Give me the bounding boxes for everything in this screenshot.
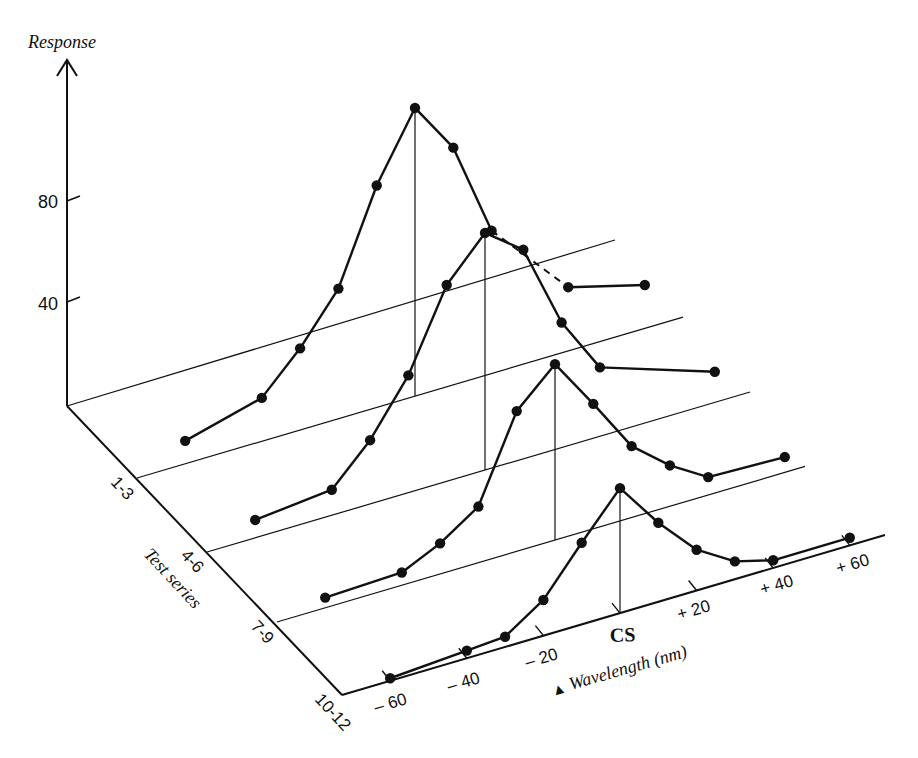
- series-segment: [600, 367, 715, 371]
- series-segment: [670, 465, 708, 477]
- series-segment: [658, 523, 696, 550]
- series-segment: [453, 148, 491, 231]
- series-segment: [408, 285, 446, 375]
- series-segment: [632, 446, 670, 465]
- series-segment: [478, 411, 516, 506]
- x-tick-label-p20: + 20: [675, 596, 712, 624]
- series-segment: [593, 404, 631, 446]
- series-segment: [447, 233, 485, 285]
- series-segment: [620, 488, 658, 523]
- data-point: [250, 515, 260, 525]
- data-point: [615, 483, 625, 493]
- data-point: [448, 142, 458, 152]
- delta-icon: ▲: [549, 678, 568, 698]
- data-point: [295, 343, 305, 353]
- baseline-4-6: [207, 392, 750, 552]
- data-point: [640, 280, 650, 290]
- data-point: [556, 317, 566, 327]
- data-point: [403, 370, 413, 380]
- series-segment: [697, 550, 735, 562]
- x-tick-label-m40: – 40: [445, 668, 482, 695]
- data-point: [550, 359, 560, 369]
- data-point: [480, 228, 490, 238]
- series-segment: [708, 457, 785, 477]
- series-segment: [325, 572, 402, 597]
- x-tick: [612, 603, 620, 613]
- x-tick-label-p60: + 60: [834, 550, 871, 578]
- series-segment: [568, 285, 645, 287]
- data-point: [257, 393, 267, 403]
- series-segment: [377, 108, 415, 186]
- data-point: [320, 592, 330, 602]
- series-segment: [415, 108, 453, 148]
- data-point: [442, 280, 452, 290]
- data-point: [333, 283, 343, 293]
- series-segment: [300, 289, 338, 349]
- data-point: [473, 501, 483, 511]
- z-tick-label-1-3: 1-3: [107, 473, 138, 504]
- x-tick-label-m60: – 60: [372, 689, 409, 716]
- x-tick: [535, 626, 543, 636]
- series-segment: [582, 488, 620, 543]
- x-axis-label: Wavelength (nm): [567, 641, 690, 695]
- data-point: [595, 362, 605, 372]
- y-tick-label-40: 40: [38, 294, 58, 314]
- data-point: [462, 645, 472, 655]
- baseline-back: [67, 240, 615, 406]
- data-point: [538, 595, 548, 605]
- data-point: [365, 435, 375, 445]
- series-segment: [485, 233, 523, 250]
- series-segment: [262, 348, 300, 398]
- series-segment: [492, 231, 569, 287]
- baseline-1-3: [137, 317, 683, 478]
- series-lines: [180, 103, 855, 684]
- series-segment: [185, 398, 262, 441]
- series-segment: [440, 507, 478, 544]
- series-segment: [332, 440, 370, 490]
- series-segment: [255, 490, 332, 520]
- data-point: [730, 556, 740, 566]
- data-point: [653, 518, 663, 528]
- series-segment: [523, 250, 561, 323]
- waterfall-chart: Response 80 40 1-3 4-6 7-9 10-12 Test se…: [0, 0, 918, 758]
- data-point: [180, 436, 190, 446]
- data-point: [780, 452, 790, 462]
- data-point: [518, 244, 528, 254]
- data-point: [768, 555, 778, 565]
- z-tick-label-10-12: 10-12: [311, 690, 355, 735]
- data-point: [710, 367, 720, 377]
- x-tick: [689, 581, 697, 591]
- data-point: [500, 632, 510, 642]
- data-point: [665, 460, 675, 470]
- series-baselines: [67, 240, 805, 622]
- series-segment: [517, 364, 555, 411]
- x-tick-label-p40: + 40: [758, 571, 795, 599]
- y-tick-80: [67, 196, 80, 201]
- data-point: [372, 180, 382, 190]
- data-point: [397, 567, 407, 577]
- data-point: [410, 103, 420, 113]
- x-tick-label-cs: CS: [609, 623, 635, 646]
- data-point: [626, 441, 636, 451]
- series-segment: [338, 186, 376, 289]
- data-point: [703, 472, 713, 482]
- data-point: [327, 485, 337, 495]
- x-tick-label-m20: – 20: [523, 644, 560, 671]
- y-tick-40: [67, 297, 80, 302]
- depth-axis: [67, 406, 342, 695]
- y-tick-label-80: 80: [38, 192, 58, 212]
- data-point: [588, 399, 598, 409]
- series-segment: [735, 560, 773, 561]
- data-point: [563, 282, 573, 292]
- data-point: [691, 545, 701, 555]
- series-segment: [543, 543, 581, 600]
- data-point: [577, 538, 587, 548]
- series-segment: [505, 600, 543, 637]
- series-segment: [562, 323, 600, 368]
- data-point: [845, 533, 855, 543]
- series-segment: [402, 543, 440, 572]
- y-axis-label: Response: [27, 32, 96, 52]
- series-segment: [555, 364, 593, 404]
- data-point: [385, 673, 395, 683]
- data-point: [512, 406, 522, 416]
